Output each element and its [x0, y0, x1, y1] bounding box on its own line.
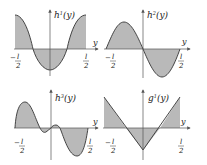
- h2-label: h2(y): [147, 10, 169, 20]
- h2-tick-right: l 2: [178, 53, 184, 70]
- svg-text:2: 2: [19, 147, 25, 155]
- figure-grid: h1(y) y − l 2 l 2 h2(y) y − l 2 l: [0, 0, 207, 165]
- panel-h3: h3(y) y − l 2 l 2: [14, 90, 98, 160]
- g1-label: g1(y): [148, 93, 170, 103]
- g1-y-var: y: [180, 117, 186, 126]
- h3-label: h3(y): [55, 93, 77, 103]
- h1-y-var: y: [92, 38, 98, 47]
- svg-text:l: l: [89, 138, 91, 146]
- panel-h2: h2(y) y − l 2 l 2: [104, 10, 190, 78]
- h1-label: h1(y): [54, 10, 76, 20]
- h3-y-var: y: [92, 117, 98, 126]
- svg-text:2: 2: [83, 62, 89, 70]
- h1-tick-left: − l 2: [10, 53, 21, 70]
- svg-text:l: l: [180, 138, 182, 146]
- g1-tick-left: − l 2: [105, 138, 116, 155]
- svg-text:2: 2: [110, 147, 116, 155]
- h1-tick-right: l 2: [83, 53, 89, 70]
- svg-text:2: 2: [178, 62, 184, 70]
- svg-text:2: 2: [178, 147, 184, 155]
- panel-g1: g1(y) y − l 2 l 2: [103, 90, 190, 160]
- g1-tick-right: l 2: [178, 138, 184, 155]
- svg-text:l: l: [112, 138, 114, 146]
- h3-tick-left: − l 2: [14, 138, 25, 155]
- panel-h1: h1(y) y − l 2 l 2: [10, 10, 98, 76]
- svg-text:2: 2: [15, 62, 21, 70]
- svg-text:l: l: [180, 53, 182, 61]
- svg-text:l: l: [85, 53, 87, 61]
- svg-text:2: 2: [110, 62, 116, 70]
- h3-area: [15, 102, 88, 156]
- svg-text:l: l: [17, 53, 19, 61]
- svg-text:l: l: [21, 138, 23, 146]
- svg-text:l: l: [112, 53, 114, 61]
- h2-y-var: y: [181, 37, 187, 46]
- h3-tick-right: l 2: [87, 138, 93, 155]
- svg-text:2: 2: [87, 147, 93, 155]
- h2-tick-left: − l 2: [105, 53, 116, 70]
